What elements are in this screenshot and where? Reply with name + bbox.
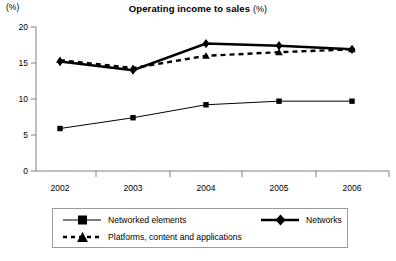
legend-item-platforms: Platforms, content and applications (61, 230, 242, 244)
legend-item-networked-elements: Networked elements (61, 213, 186, 227)
x-tick-label-2006: 2006 (343, 183, 362, 193)
chart-legend: Networked elements Networks Platforms, c… (52, 208, 348, 248)
chart-container: Operating income to sales (%) (%) 20 15 … (0, 0, 396, 261)
y-axis-tick-labels: 20 15 10 5 0 (19, 22, 29, 176)
data-point-square (203, 102, 208, 107)
data-point-square (349, 98, 354, 103)
legend-label-networked-elements: Networked elements (108, 214, 186, 226)
legend-swatch-networks (259, 214, 301, 226)
data-point-square (57, 126, 62, 131)
legend-swatch-platforms (61, 231, 103, 243)
series-0 (57, 98, 354, 131)
y-tick-label-10: 10 (19, 94, 29, 104)
x-axis-ticks (96, 171, 389, 177)
x-tick-label-2003: 2003 (124, 183, 143, 193)
y-tick-label-0: 0 (23, 166, 28, 176)
x-tick-label-2004: 2004 (197, 183, 216, 193)
legend-swatch-networked-elements (61, 214, 103, 226)
data-point-square (276, 98, 281, 103)
y-axis-ticks (31, 27, 36, 171)
legend-label-platforms: Platforms, content and applications (108, 231, 242, 243)
y-tick-label-5: 5 (23, 130, 28, 140)
y-tick-label-15: 15 (19, 58, 29, 68)
y-tick-label-20: 20 (19, 22, 29, 32)
legend-label-networks: Networks (306, 214, 342, 226)
x-tick-label-2005: 2005 (270, 183, 289, 193)
data-point-square (130, 115, 135, 120)
x-axis-tick-labels: 2002 2003 2004 2005 2006 (51, 183, 362, 193)
data-point-diamond (203, 39, 210, 48)
legend-item-networks: Networks (259, 213, 342, 227)
x-tick-label-2002: 2002 (51, 183, 70, 193)
series-layer (56, 39, 356, 131)
